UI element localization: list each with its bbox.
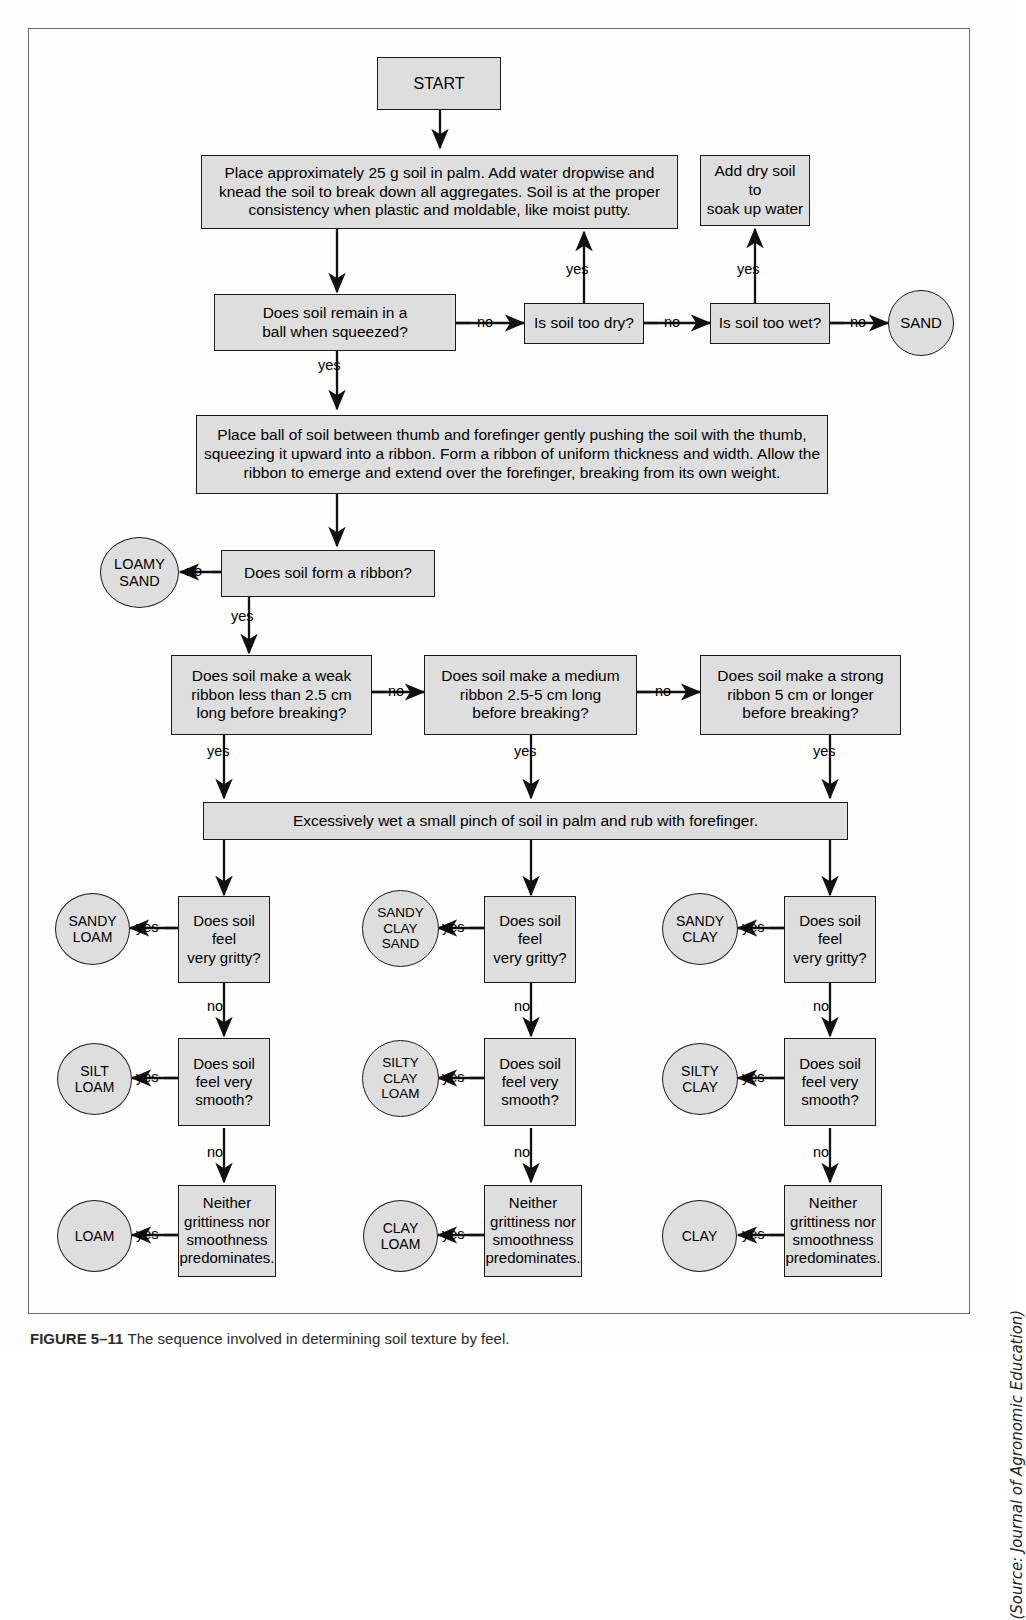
node-smooth-c[interactable]: Does soil feel very smooth?: [784, 1038, 876, 1126]
node-silty-clay-loam-label: SILTY CLAY LOAM: [381, 1055, 419, 1102]
edge-label-ribbon-yes: yes: [231, 609, 254, 624]
edge-label-smooth-c-yes: yes: [742, 1070, 765, 1085]
edge-label-smooth-b-no: no: [514, 1145, 530, 1160]
node-sandy-clay-label: SANDY CLAY: [676, 913, 724, 945]
node-medium-ribbon[interactable]: Does soil make a medium ribbon 2.5-5 cm …: [424, 655, 637, 735]
node-forms-ribbon-label: Does soil form a ribbon?: [244, 564, 412, 583]
node-strong-ribbon[interactable]: Does soil make a strong ribbon 5 cm or l…: [700, 655, 901, 735]
node-medium-ribbon-label: Does soil make a medium ribbon 2.5-5 cm …: [441, 667, 619, 724]
figure-caption-text: The sequence involved in determining soi…: [128, 1330, 510, 1347]
node-clay-loam-label: CLAY LOAM: [381, 1220, 421, 1252]
node-silt-loam[interactable]: SILT LOAM: [57, 1043, 132, 1115]
node-is-soil-too-wet[interactable]: Is soil too wet?: [710, 303, 830, 344]
node-weak-ribbon[interactable]: Does soil make a weak ribbon less than 2…: [171, 655, 372, 735]
node-sandy-clay-sand[interactable]: SANDY CLAY SAND: [362, 890, 439, 967]
node-knead-instruction-label: Place approximately 25 g soil in palm. A…: [207, 164, 672, 221]
node-knead-instruction[interactable]: Place approximately 25 g soil in palm. A…: [201, 155, 678, 229]
edge-label-gritty-b-no: no: [514, 999, 530, 1014]
node-weak-ribbon-label: Does soil make a weak ribbon less than 2…: [191, 667, 351, 724]
node-ribbon-instruction-label: Place ball of soil between thumb and for…: [202, 426, 822, 483]
figure-caption: FIGURE 5–11 The sequence involved in det…: [30, 1330, 509, 1351]
node-start[interactable]: START: [377, 57, 501, 110]
edge-label-smooth-a-yes: yes: [136, 1070, 159, 1085]
edge-label-medium-yes: yes: [514, 744, 537, 759]
node-start-label: START: [414, 74, 465, 94]
node-neither-b-label: Neither grittiness nor smoothness predom…: [485, 1194, 580, 1267]
node-gritty-a-label: Does soil feel very gritty?: [187, 912, 260, 967]
edge-label-too-dry-no: no: [664, 315, 680, 330]
node-gritty-c-label: Does soil feel very gritty?: [793, 912, 866, 967]
node-sandy-clay-sand-label: SANDY CLAY SAND: [377, 905, 424, 952]
edge-label-ball-yes: yes: [318, 358, 341, 373]
edge-label-gritty-a-no: no: [207, 999, 223, 1014]
node-sandy-loam-label: SANDY LOAM: [68, 913, 116, 945]
edge-label-strong-yes: yes: [813, 744, 836, 759]
edge-label-smooth-a-no: no: [207, 1145, 223, 1160]
edge-label-too-wet-yes: yes: [737, 262, 760, 277]
node-clay[interactable]: CLAY: [662, 1200, 737, 1272]
edge-label-ball-no: no: [477, 315, 493, 330]
edge-label-weak-no: no: [388, 684, 404, 699]
node-smooth-a[interactable]: Does soil feel very smooth?: [178, 1038, 270, 1126]
node-loamy-sand-label: LOAMY SAND: [114, 556, 165, 589]
node-sand-label: SAND: [900, 314, 942, 331]
edge-label-gritty-b-yes: yes: [442, 920, 465, 935]
node-is-soil-too-dry-label: Is soil too dry?: [534, 314, 634, 333]
node-smooth-a-label: Does soil feel very smooth?: [193, 1055, 255, 1110]
edge-label-neither-c-yes: yes: [742, 1227, 765, 1242]
edge-label-too-dry-yes: yes: [566, 262, 589, 277]
edge-label-neither-a-yes: yes: [136, 1227, 159, 1242]
node-loam[interactable]: LOAM: [57, 1200, 132, 1272]
node-gritty-c[interactable]: Does soil feel very gritty?: [784, 896, 876, 983]
node-clay-label: CLAY: [682, 1228, 718, 1244]
node-silty-clay[interactable]: SILTY CLAY: [662, 1043, 738, 1115]
node-neither-c-label: Neither grittiness nor smoothness predom…: [785, 1194, 880, 1267]
node-gritty-b-label: Does soil feel very gritty?: [493, 912, 566, 967]
node-strong-ribbon-label: Does soil make a strong ribbon 5 cm or l…: [717, 667, 883, 724]
edge-label-gritty-a-yes: yes: [136, 920, 159, 935]
node-add-dry-soil[interactable]: Add dry soil to soak up water: [700, 155, 810, 226]
node-forms-ribbon[interactable]: Does soil form a ribbon?: [221, 550, 435, 597]
node-neither-c[interactable]: Neither grittiness nor smoothness predom…: [784, 1185, 882, 1277]
node-ribbon-instruction[interactable]: Place ball of soil between thumb and for…: [196, 415, 828, 494]
node-sand[interactable]: SAND: [888, 290, 954, 356]
node-wet-pinch[interactable]: Excessively wet a small pinch of soil in…: [203, 802, 848, 840]
edge-label-smooth-b-yes: yes: [442, 1070, 465, 1085]
node-loamy-sand[interactable]: LOAMY SAND: [100, 537, 179, 608]
node-silty-clay-label: SILTY CLAY: [681, 1063, 719, 1095]
node-silt-loam-label: SILT LOAM: [75, 1063, 115, 1095]
edge-label-medium-no: no: [655, 684, 671, 699]
node-ball-when-squeezed[interactable]: Does soil remain in a ball when squeezed…: [214, 294, 456, 351]
node-smooth-c-label: Does soil feel very smooth?: [799, 1055, 861, 1110]
node-sandy-loam[interactable]: SANDY LOAM: [55, 893, 130, 965]
node-loam-label: LOAM: [75, 1228, 115, 1244]
edge-label-weak-yes: yes: [207, 744, 230, 759]
node-neither-a-label: Neither grittiness nor smoothness predom…: [179, 1194, 274, 1267]
edge-label-gritty-c-no: no: [813, 999, 829, 1014]
edge-label-neither-b-yes: yes: [442, 1227, 465, 1242]
node-gritty-b[interactable]: Does soil feel very gritty?: [484, 896, 576, 983]
node-smooth-b[interactable]: Does soil feel very smooth?: [484, 1038, 576, 1126]
edge-label-gritty-c-yes: yes: [742, 920, 765, 935]
edge-label-smooth-c-no: no: [813, 1145, 829, 1160]
figure-caption-number: FIGURE 5–11: [30, 1330, 123, 1347]
node-smooth-b-label: Does soil feel very smooth?: [499, 1055, 561, 1110]
node-sandy-clay[interactable]: SANDY CLAY: [662, 893, 738, 965]
edge-label-ribbon-no: no: [186, 564, 202, 579]
node-silty-clay-loam[interactable]: SILTY CLAY LOAM: [362, 1040, 439, 1117]
node-wet-pinch-label: Excessively wet a small pinch of soil in…: [293, 812, 758, 831]
node-is-soil-too-wet-label: Is soil too wet?: [719, 314, 822, 333]
node-clay-loam[interactable]: CLAY LOAM: [363, 1200, 438, 1272]
edge-label-too-wet-no: no: [850, 315, 866, 330]
node-ball-when-squeezed-label: Does soil remain in a ball when squeezed…: [262, 304, 408, 342]
source-credit: (Source: Journal of Agronomic Education): [1008, 1310, 1026, 1620]
node-neither-b[interactable]: Neither grittiness nor smoothness predom…: [484, 1185, 582, 1277]
node-gritty-a[interactable]: Does soil feel very gritty?: [178, 896, 270, 983]
node-neither-a[interactable]: Neither grittiness nor smoothness predom…: [178, 1185, 276, 1277]
node-add-dry-soil-label: Add dry soil to soak up water: [706, 162, 804, 219]
node-is-soil-too-dry[interactable]: Is soil too dry?: [524, 303, 644, 344]
